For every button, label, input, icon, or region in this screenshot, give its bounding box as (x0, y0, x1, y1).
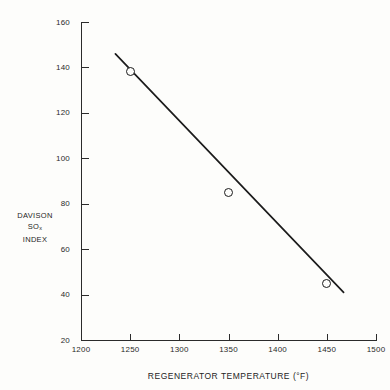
x-tick-label-1200: 1200 (61, 345, 101, 354)
x-tick-1450 (327, 334, 328, 341)
x-tick-label-1250: 1250 (110, 345, 150, 354)
x-tick-1200 (81, 334, 82, 341)
x-tick-label-1400: 1400 (258, 345, 298, 354)
y-tick-label-140: 140 (30, 63, 70, 72)
y-tick-label-20: 20 (30, 336, 70, 345)
x-tick-1250 (130, 334, 131, 341)
y-tick-80 (82, 204, 89, 205)
y-tick-140 (82, 67, 89, 68)
data-point-1250 (126, 67, 135, 76)
y-tick-label-120: 120 (30, 108, 70, 117)
y-tick-40 (82, 295, 89, 296)
y-axis-title-subscript: x (39, 225, 42, 231)
y-tick-100 (82, 158, 89, 159)
x-tick-label-1300: 1300 (159, 345, 199, 354)
y-tick-20 (82, 340, 89, 341)
y-axis-title-line-2: SOx (4, 221, 66, 234)
data-point-1350 (224, 188, 233, 197)
x-tick-label-1500: 1500 (356, 345, 390, 354)
x-tick-1350 (229, 334, 230, 341)
y-tick-60 (82, 249, 89, 250)
y-tick-label-100: 100 (30, 154, 70, 163)
y-axis-line (81, 22, 82, 341)
data-point-1450 (322, 279, 331, 288)
y-axis-title: DAVISON SOx INDEX (4, 210, 66, 245)
x-tick-1500 (376, 334, 377, 341)
x-tick-label-1450: 1450 (307, 345, 347, 354)
y-tick-label-40: 40 (30, 290, 70, 299)
x-tick-label-1350: 1350 (209, 345, 249, 354)
y-tick-label-60: 60 (30, 245, 70, 254)
y-tick-160 (82, 22, 89, 23)
y-tick-label-80: 80 (30, 199, 70, 208)
x-tick-1300 (179, 334, 180, 341)
y-axis-title-line-3: INDEX (4, 234, 66, 245)
x-axis-title: REGENERATOR TEMPERATURE (°F) (81, 371, 376, 381)
y-axis-title-line-2-text: SO (28, 222, 39, 231)
y-tick-label-160: 160 (30, 18, 70, 27)
y-axis-title-line-1: DAVISON (4, 210, 66, 221)
y-tick-120 (82, 113, 89, 114)
x-tick-1400 (278, 334, 279, 341)
